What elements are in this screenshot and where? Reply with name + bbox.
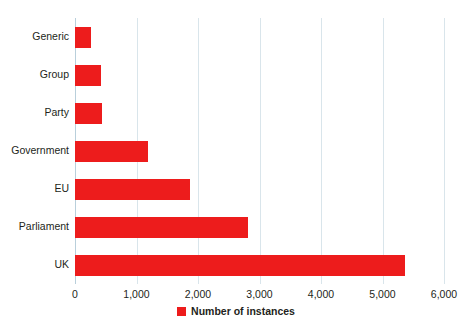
- category-label: Group: [3, 69, 69, 80]
- plot-area: [75, 18, 444, 284]
- category-label: Parliament: [3, 221, 69, 232]
- bar-track: [75, 64, 444, 86]
- category-label: EU: [3, 183, 69, 194]
- x-tick-label: 5,000: [369, 288, 395, 300]
- bar-track: [75, 102, 444, 124]
- bar-track: [75, 216, 444, 238]
- bar-track: [75, 140, 444, 162]
- category-axis: GenericGroupPartyGovernmentEUParliamentU…: [0, 18, 69, 284]
- bar[interactable]: [75, 179, 190, 200]
- category-label: Generic: [3, 31, 69, 42]
- legend-swatch-icon: [177, 307, 186, 316]
- bar[interactable]: [75, 217, 248, 238]
- bar-track: [75, 26, 444, 48]
- bar[interactable]: [75, 27, 91, 48]
- bar-track: [75, 254, 444, 276]
- bar[interactable]: [75, 141, 148, 162]
- bar-chart: GenericGroupPartyGovernmentEUParliamentU…: [0, 0, 472, 327]
- x-tick-label: 4,000: [308, 288, 334, 300]
- x-tick-label: 3,000: [246, 288, 272, 300]
- x-tick-label: 0: [72, 288, 78, 300]
- bar[interactable]: [75, 103, 102, 124]
- x-tick-label: 1,000: [123, 288, 149, 300]
- bar-track: [75, 178, 444, 200]
- x-tick-label: 6,000: [431, 288, 457, 300]
- chart-legend: Number of instances: [0, 305, 472, 317]
- value-axis: 01,0002,0003,0004,0005,0006,000: [75, 288, 444, 304]
- bar[interactable]: [75, 255, 405, 276]
- gridline: [444, 18, 445, 284]
- category-label: UK: [3, 259, 69, 270]
- bar[interactable]: [75, 65, 101, 86]
- x-tick-label: 2,000: [185, 288, 211, 300]
- legend-label: Number of instances: [191, 305, 295, 317]
- category-label: Government: [3, 145, 69, 156]
- category-label: Party: [3, 107, 69, 118]
